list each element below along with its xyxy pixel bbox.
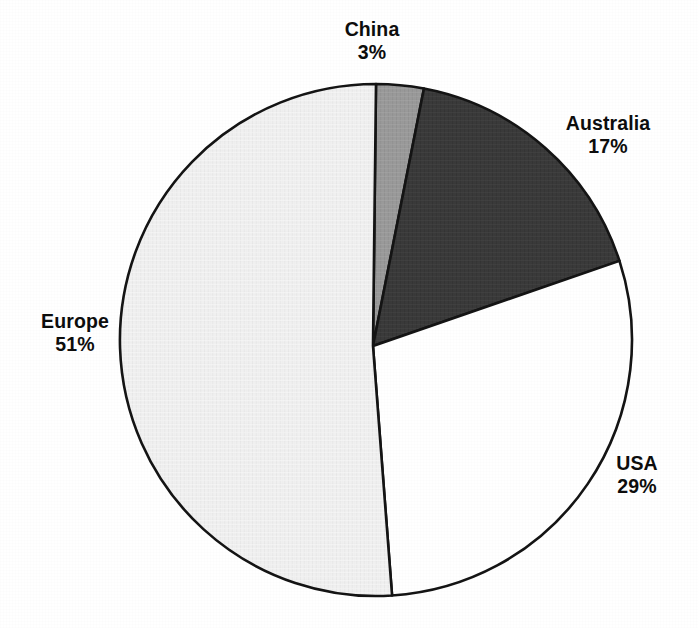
pie-label-europe: Europe 51% — [20, 310, 130, 356]
pie-label-usa: USA 29% — [596, 452, 678, 498]
pie-label-australia-name: Australia — [545, 112, 671, 135]
pie-slice-europe[interactable] — [120, 84, 392, 596]
pie-label-australia-value: 17% — [545, 135, 671, 158]
pie-label-usa-name: USA — [596, 452, 678, 475]
pie-label-china-value: 3% — [320, 41, 424, 64]
pie-label-europe-name: Europe — [20, 310, 130, 333]
pie-label-europe-value: 51% — [20, 333, 130, 356]
pie-label-china-name: China — [320, 18, 424, 41]
pie-chart: China 3% Australia 17% USA 29% Europe 51… — [0, 0, 698, 628]
pie-slice-group — [120, 84, 632, 596]
pie-label-usa-value: 29% — [596, 475, 678, 498]
pie-label-china: China 3% — [320, 18, 424, 64]
pie-label-australia: Australia 17% — [545, 112, 671, 158]
